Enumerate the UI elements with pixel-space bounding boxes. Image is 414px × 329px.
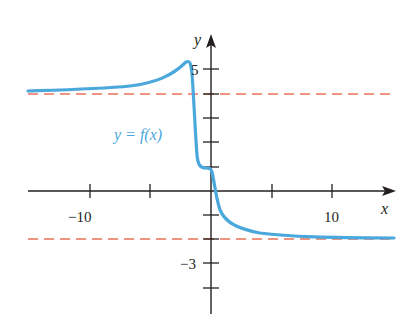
x-axis <box>28 184 396 198</box>
function-graph: −10 10 5 −3 x y y = f(x) <box>0 0 414 329</box>
y-axis-label: y <box>192 31 202 49</box>
y-tick-label-5: 5 <box>191 62 199 78</box>
y-tick-label-neg3: −3 <box>180 256 196 272</box>
function-label: y = f(x) <box>112 126 162 144</box>
x-tick-label-10: 10 <box>324 209 339 225</box>
x-axis-label: x <box>380 200 388 217</box>
x-tick-label-neg10: −10 <box>68 209 91 225</box>
